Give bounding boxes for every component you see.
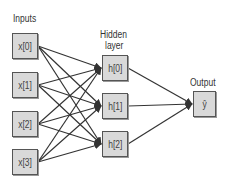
edge-h1-to-yhat [128, 104, 192, 106]
output-node-label: ŷ [202, 99, 206, 110]
input-node-label: x[2] [18, 119, 32, 130]
hidden-node-h0: h[0] [102, 55, 128, 81]
hidden-node-label: h[0] [108, 63, 122, 74]
edge-h2-to-yhat [128, 104, 192, 144]
hidden-layer-label-line1: Hidden [100, 29, 127, 40]
output-node-yhat: ŷ [193, 91, 216, 117]
input-node-label: x[1] [18, 80, 32, 91]
hidden-layer-label-line2: layer [105, 40, 123, 51]
edge-h0-to-yhat [128, 68, 192, 104]
edge-x0-to-h0 [38, 46, 101, 68]
input-node-label: x[0] [18, 41, 32, 52]
hidden-node-label: h[1] [108, 101, 122, 112]
input-node-x0: x[0] [12, 33, 38, 59]
input-node-x3: x[3] [12, 149, 38, 175]
input-node-label: x[3] [18, 157, 32, 168]
hidden-node-label: h[2] [108, 139, 122, 150]
hidden-node-h1: h[1] [102, 93, 128, 119]
inputs-label: Inputs [13, 13, 36, 24]
input-node-x2: x[2] [12, 111, 38, 137]
output-label: Output [190, 77, 216, 88]
input-node-x1: x[1] [12, 72, 38, 98]
hidden-node-h2: h[2] [102, 131, 128, 157]
